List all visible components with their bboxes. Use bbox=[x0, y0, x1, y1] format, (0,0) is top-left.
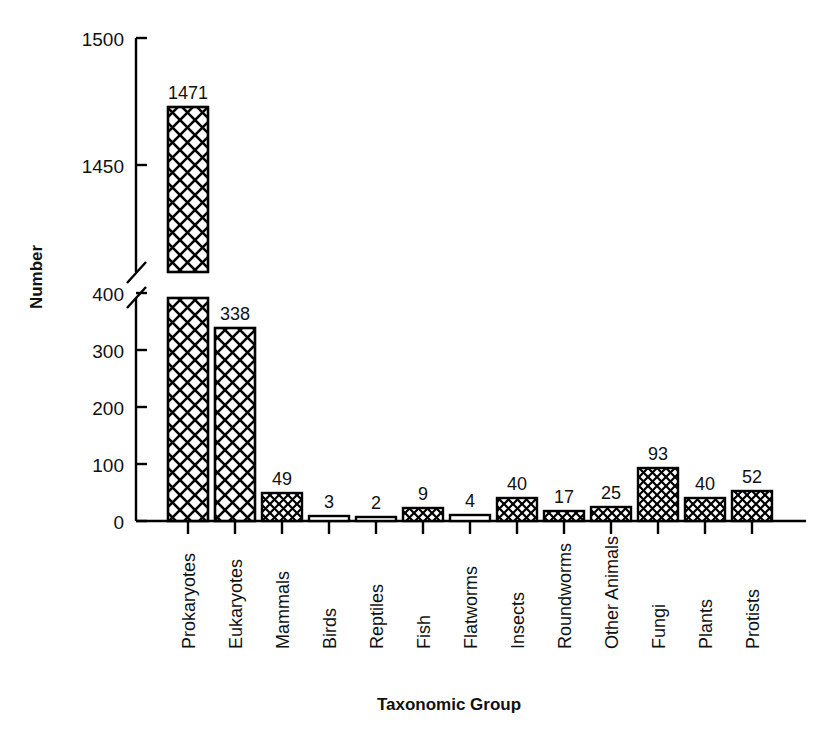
value-label-birds: 3 bbox=[324, 492, 334, 512]
value-label-insects: 40 bbox=[507, 474, 527, 494]
value-labels: 1471 338 49 3 2 9 4 40 17 25 93 40 52 bbox=[168, 83, 762, 513]
bar-roundworms bbox=[544, 511, 584, 521]
bar-prokaryotes-upper bbox=[168, 107, 208, 272]
y-tick-label-400: 400 bbox=[92, 284, 124, 305]
value-label-fish: 9 bbox=[418, 484, 428, 504]
x-tick-label-fungi: Fungi bbox=[649, 604, 669, 649]
value-label-flatworms: 4 bbox=[465, 491, 475, 511]
y-axis: 1500 1450 400 300 200 100 0 bbox=[82, 29, 147, 533]
chart-container: 1500 1450 400 300 200 100 0 bbox=[0, 0, 839, 739]
bar-other-animals bbox=[591, 507, 631, 521]
bar-plants bbox=[685, 498, 725, 521]
bar-flatworms bbox=[450, 515, 490, 521]
y-axis-title: Number bbox=[27, 245, 46, 310]
value-label-mammals: 49 bbox=[272, 469, 292, 489]
x-tick-label-protists: Protists bbox=[743, 589, 763, 649]
x-tick-label-fish: Fish bbox=[414, 615, 434, 649]
y-tick-label-1450: 1450 bbox=[82, 156, 124, 177]
bar-prokaryotes-lower bbox=[168, 298, 208, 521]
bar-reptiles bbox=[356, 517, 396, 521]
x-tick-label-insects: Insects bbox=[508, 592, 528, 649]
bar-chart: 1500 1450 400 300 200 100 0 bbox=[0, 0, 839, 739]
bar-mammals bbox=[262, 493, 302, 521]
y-tick-label-0: 0 bbox=[113, 512, 124, 533]
x-tick-label-plants: Plants bbox=[696, 599, 716, 649]
x-axis-title: Taxonomic Group bbox=[377, 695, 521, 714]
bar-protists bbox=[732, 491, 772, 521]
value-label-fungi: 93 bbox=[648, 444, 668, 464]
y-tick-label-1500: 1500 bbox=[82, 29, 124, 50]
value-label-eukaryotes: 338 bbox=[220, 304, 250, 324]
category-labels: Prokaryotes Eukaryotes Mammals Birds Rep… bbox=[179, 536, 763, 649]
bar-eukaryotes bbox=[215, 328, 255, 521]
x-tick-label-reptiles: Reptiles bbox=[367, 584, 387, 649]
bar-birds bbox=[309, 516, 349, 521]
x-tick-label-other-animals: Other Animals bbox=[602, 536, 622, 649]
bars bbox=[168, 107, 772, 521]
value-label-roundworms: 17 bbox=[554, 487, 574, 507]
y-tick-label-100: 100 bbox=[92, 455, 124, 476]
x-tick-label-prokaryotes: Prokaryotes bbox=[179, 553, 199, 649]
value-label-reptiles: 2 bbox=[371, 493, 381, 513]
value-label-prokaryotes: 1471 bbox=[168, 83, 208, 103]
bar-fungi bbox=[638, 468, 678, 521]
x-axis bbox=[136, 521, 806, 534]
value-label-protists: 52 bbox=[742, 467, 762, 487]
value-label-plants: 40 bbox=[695, 474, 715, 494]
x-tick-label-eukaryotes: Eukaryotes bbox=[226, 559, 246, 649]
y-tick-label-200: 200 bbox=[92, 398, 124, 419]
x-tick-label-mammals: Mammals bbox=[273, 571, 293, 649]
bar-insects bbox=[497, 498, 537, 521]
x-tick-label-birds: Birds bbox=[320, 608, 340, 649]
value-label-other-animals: 25 bbox=[601, 483, 621, 503]
bar-fish bbox=[403, 508, 443, 521]
x-tick-label-flatworms: Flatworms bbox=[461, 566, 481, 649]
x-tick-label-roundworms: Roundworms bbox=[555, 543, 575, 649]
y-tick-label-300: 300 bbox=[92, 341, 124, 362]
